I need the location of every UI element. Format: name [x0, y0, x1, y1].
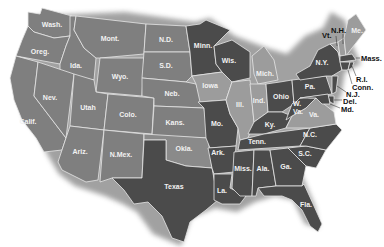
label-minn: Minn.	[194, 42, 212, 49]
label-md: Md.	[341, 105, 354, 114]
label-nev: Nev.	[43, 94, 57, 101]
label-calif: Calif.	[19, 118, 36, 125]
us-map: Wash. Oreg. Calif. Ida. Nev. Mont. Wyo. …	[0, 0, 384, 247]
label-ind: Ind.	[253, 97, 265, 104]
label-sc: S.C.	[298, 150, 312, 157]
label-ohio: Ohio	[273, 93, 289, 100]
state-miss[interactable]	[232, 150, 254, 196]
label-colo: Colo.	[119, 111, 137, 118]
label-sd: S.D.	[159, 62, 173, 69]
label-va: Va.	[309, 111, 319, 118]
label-ny: N.Y.	[316, 59, 329, 66]
label-ida: Ida.	[70, 62, 82, 69]
label-wva-2: Va.	[293, 108, 303, 115]
label-wyo: Wyo.	[112, 73, 129, 81]
label-ark: Ark.	[211, 149, 225, 156]
label-ky: Ky.	[265, 121, 275, 129]
label-nmex: N.Mex.	[110, 151, 133, 158]
label-utah: Utah	[80, 104, 96, 111]
label-neb: Neb.	[164, 90, 179, 97]
label-iowa: Iowa	[202, 82, 218, 89]
label-fla: Fla.	[300, 201, 312, 208]
label-ariz: Ariz.	[72, 148, 87, 155]
region-west	[10, 8, 154, 182]
label-wis: Wis.	[222, 57, 236, 64]
label-ill: Ill.	[236, 101, 244, 108]
label-wash: Wash.	[42, 21, 62, 28]
label-mont: Mont.	[101, 35, 120, 42]
label-mass: Mass.	[361, 54, 382, 63]
label-ala: Ala.	[257, 165, 270, 172]
label-nc: N.C.	[303, 131, 317, 138]
label-mich: Mich.	[256, 70, 274, 77]
state-fla[interactable]	[258, 184, 322, 232]
label-texas: Texas	[164, 183, 183, 190]
state-me[interactable]	[344, 14, 366, 56]
label-mo: Mo.	[211, 120, 223, 127]
label-pa: Pa.	[305, 83, 316, 90]
label-okla: Okla.	[175, 145, 192, 152]
label-nd: N.D.	[159, 36, 173, 43]
label-nh: N.H.	[331, 26, 346, 35]
label-ga: Ga.	[280, 163, 291, 170]
label-miss: Miss.	[234, 165, 252, 172]
label-la: La.	[217, 187, 227, 194]
label-kans: Kans.	[165, 119, 184, 126]
label-me: Me.	[351, 27, 363, 34]
label-wva-1: W.	[293, 100, 301, 107]
label-tenn: Tenn.	[248, 138, 266, 145]
label-oreg: Oreg.	[31, 48, 49, 56]
